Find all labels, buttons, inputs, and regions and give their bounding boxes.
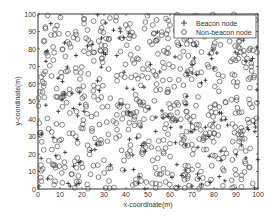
svg-text:40: 40 bbox=[122, 191, 130, 198]
svg-text:100: 100 bbox=[24, 11, 36, 18]
svg-text:50: 50 bbox=[144, 191, 152, 198]
legend-beacon-label: Beacon node bbox=[196, 20, 237, 27]
svg-text:70: 70 bbox=[188, 191, 196, 198]
svg-text:0: 0 bbox=[32, 186, 36, 193]
svg-text:20: 20 bbox=[78, 191, 86, 198]
svg-text:90: 90 bbox=[28, 28, 36, 35]
svg-text:100: 100 bbox=[252, 191, 264, 198]
svg-text:70: 70 bbox=[28, 63, 36, 70]
legend-nonbeacon-label: Non-beacon node bbox=[196, 29, 252, 36]
svg-text:80: 80 bbox=[28, 46, 36, 53]
svg-text:50: 50 bbox=[28, 98, 36, 105]
svg-text:40: 40 bbox=[28, 116, 36, 123]
svg-text:30: 30 bbox=[100, 191, 108, 198]
svg-text:60: 60 bbox=[28, 81, 36, 88]
svg-text:60: 60 bbox=[166, 191, 174, 198]
legend: Beacon node Non-beacon node bbox=[174, 15, 256, 38]
data-points bbox=[36, 12, 260, 191]
x-axis-label: x-coordinate(m) bbox=[123, 201, 172, 209]
svg-text:0: 0 bbox=[36, 191, 40, 198]
svg-text:10: 10 bbox=[28, 168, 36, 175]
svg-text:20: 20 bbox=[28, 151, 36, 158]
svg-text:30: 30 bbox=[28, 133, 36, 140]
svg-text:90: 90 bbox=[232, 191, 240, 198]
svg-text:10: 10 bbox=[56, 191, 64, 198]
scatter-chart: 0102030405060708090100 01020304050607080… bbox=[0, 0, 273, 219]
y-axis-label: y-coordinate(m) bbox=[14, 76, 22, 125]
svg-text:80: 80 bbox=[210, 191, 218, 198]
